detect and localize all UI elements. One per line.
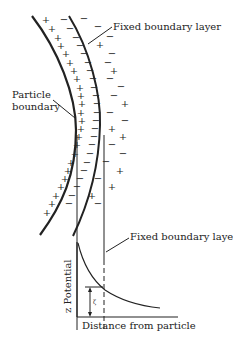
svg-text:+: +	[96, 39, 104, 50]
double-layer-diagram: + + + + + + + + + + + + + + + + + + + + …	[0, 0, 233, 342]
svg-text:−: −	[106, 73, 114, 84]
svg-text:−: −	[94, 173, 102, 184]
svg-text:+: +	[119, 131, 127, 142]
svg-text:+: +	[43, 207, 51, 218]
svg-text:+: +	[116, 165, 124, 176]
fixed-boundary-bottom-label: Fixed boundary layer	[130, 231, 233, 242]
svg-text:−: −	[106, 107, 114, 118]
svg-text:−: −	[94, 21, 102, 32]
svg-text:+: +	[108, 123, 116, 134]
svg-text:+: +	[108, 181, 116, 192]
svg-text:−: −	[102, 156, 110, 167]
zeta-arrow-up-icon	[88, 287, 92, 292]
svg-text:−: −	[94, 198, 102, 209]
svg-text:+: +	[121, 98, 129, 109]
svg-text:−: −	[80, 13, 88, 24]
svg-text:−: −	[108, 139, 116, 150]
x-axis-label: Distance from particle	[82, 320, 196, 331]
y-axis-label: z Potential	[62, 259, 73, 313]
svg-text:−: −	[110, 90, 118, 101]
zeta-label: ζ	[93, 298, 97, 306]
svg-text:−: −	[106, 31, 114, 42]
svg-text:−: −	[119, 148, 127, 159]
fixed-boundary-bottom-leader	[106, 238, 129, 252]
svg-text:−: −	[121, 115, 129, 126]
particle-boundary-label-line1: Particle	[12, 89, 51, 100]
svg-text:−: −	[65, 198, 73, 209]
particle-boundary-label-line2: boundary	[12, 101, 60, 112]
zeta-arrow-down-icon	[88, 312, 92, 317]
fixed-boundary-top-label: Fixed boundary layer	[113, 21, 221, 32]
